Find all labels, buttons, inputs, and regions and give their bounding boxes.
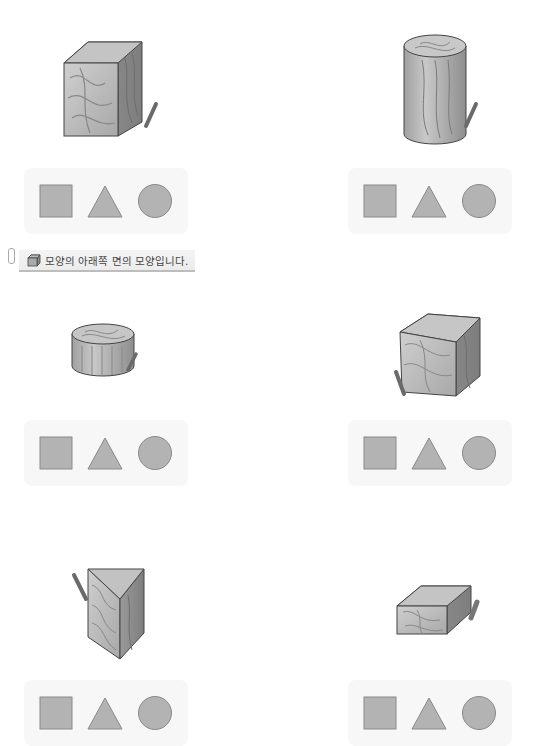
rectangular-box-solid xyxy=(395,582,485,640)
circle-option[interactable] xyxy=(137,695,173,731)
square-option[interactable] xyxy=(363,436,397,470)
cube-icon xyxy=(27,254,41,267)
triangle-option[interactable] xyxy=(86,436,124,470)
hint-tag: 모양의 아래쪽 면의 모양입니다. xyxy=(19,250,195,272)
triangle-option[interactable] xyxy=(410,436,448,470)
cylinder-solid xyxy=(400,30,490,148)
cube-solid xyxy=(390,310,490,402)
answer-strip-2 xyxy=(348,168,512,234)
circle-option[interactable] xyxy=(461,435,497,471)
paperclip-icon xyxy=(8,248,15,264)
triangle-option[interactable] xyxy=(410,184,448,218)
square-option[interactable] xyxy=(39,436,73,470)
triangular-prism-solid xyxy=(70,565,150,665)
answer-strip-1 xyxy=(24,168,188,234)
square-option[interactable] xyxy=(39,696,73,730)
circle-option[interactable] xyxy=(137,183,173,219)
triangle-option[interactable] xyxy=(86,696,124,730)
circle-option[interactable] xyxy=(137,435,173,471)
hint-text: 모양의 아래쪽 면의 모양입니다. xyxy=(45,253,188,268)
square-option[interactable] xyxy=(363,184,397,218)
circle-option[interactable] xyxy=(461,695,497,731)
triangle-option[interactable] xyxy=(410,696,448,730)
triangle-option[interactable] xyxy=(86,184,124,218)
answer-strip-3 xyxy=(24,420,188,486)
hint-note: 모양의 아래쪽 면의 모양입니다. xyxy=(8,250,195,272)
short-cylinder-solid xyxy=(70,320,150,384)
cube-solid xyxy=(60,38,170,142)
answer-strip-6 xyxy=(348,680,512,746)
square-option[interactable] xyxy=(363,696,397,730)
circle-option[interactable] xyxy=(461,183,497,219)
answer-strip-5 xyxy=(24,680,188,746)
square-option[interactable] xyxy=(39,184,73,218)
answer-strip-4 xyxy=(348,420,512,486)
